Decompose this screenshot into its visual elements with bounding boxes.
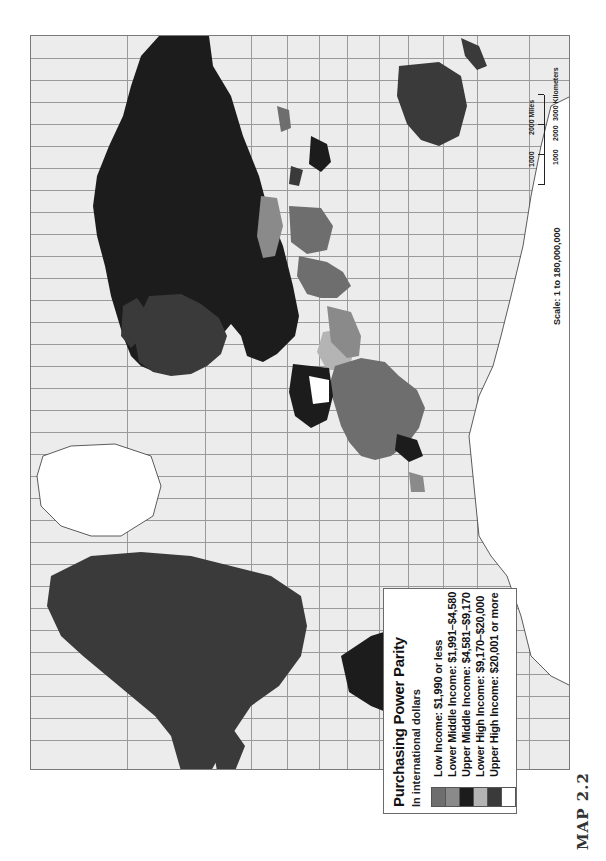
legend: Purchasing Power Parity In international… <box>383 588 517 814</box>
region-china <box>289 206 333 254</box>
region-north-america <box>47 552 307 770</box>
km-tick: 1000 <box>552 149 559 165</box>
miles-tick: 2000 Miles <box>528 100 535 135</box>
legend-item-label: Low Income: $1,990 or less <box>432 640 444 777</box>
legend-item-label: Lower Middle Income: $1,991–$4,580 <box>446 592 458 777</box>
region-madagascar <box>409 472 425 492</box>
legend-item: Upper High Income: $20,001 or more <box>486 592 502 807</box>
legend-item-label: Lower High Income: $9,170–$20,000 <box>474 596 486 777</box>
map-scale: Scale: 1 to 180,000,000 1000 2000 Miles … <box>518 85 578 325</box>
legend-subtitle: In international dollars <box>410 689 422 807</box>
region-new-zealand <box>461 38 487 70</box>
figure-label: MAP 2.2 <box>568 780 598 850</box>
legend-item <box>500 777 516 807</box>
legend-swatch <box>501 787 516 807</box>
legend-item-label: Upper High Income: $20,001 or more <box>488 592 500 777</box>
miles-tick: 1000 <box>528 151 535 167</box>
km-tick: 2000 <box>552 125 559 141</box>
scale-tick <box>538 184 544 185</box>
region-indonesia <box>309 136 331 172</box>
scale-bar <box>544 95 545 185</box>
scale-tick <box>538 154 544 155</box>
region-greenland <box>37 444 161 536</box>
legend-item-label: Upper Middle Income: $4,581–$9,170 <box>460 592 472 777</box>
km-tick: 3000 Kilometers <box>552 67 559 121</box>
region-philippines <box>277 106 291 132</box>
legend-title: Purchasing Power Parity <box>390 637 407 807</box>
scale-tick <box>538 94 544 95</box>
region-australia <box>397 62 467 146</box>
figure-label-text: MAP 2.2 <box>568 780 598 850</box>
region-japan <box>289 166 303 186</box>
scale-text: Scale: 1 to 180,000,000 <box>552 227 562 325</box>
region-south-africa <box>395 434 423 462</box>
scale-tick <box>538 124 544 125</box>
region-middle-east <box>297 256 351 298</box>
